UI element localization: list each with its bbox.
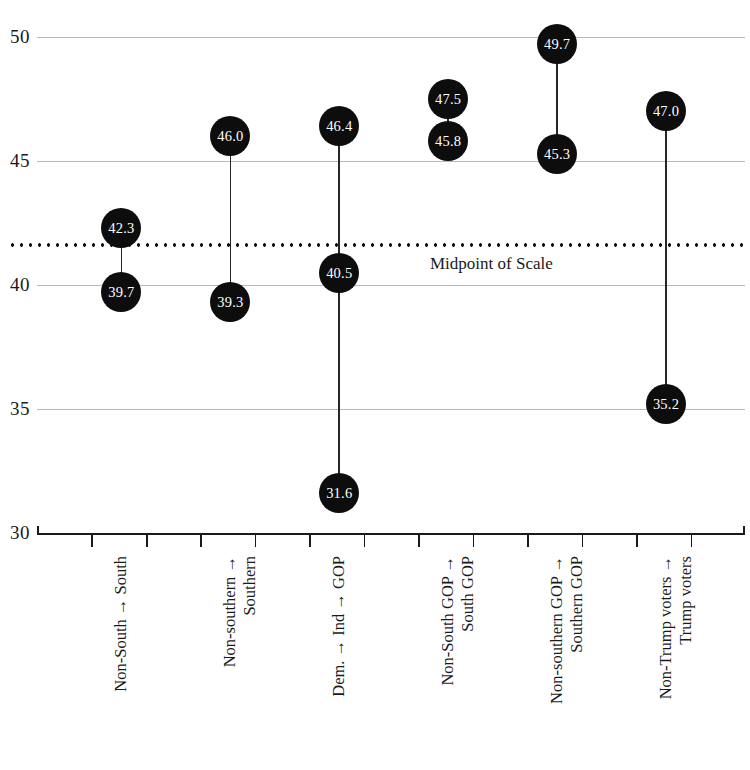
y-axis-tick-label: 50 [0,27,30,46]
x-axis-label-non-trump-voters-to-trump-voters: Non-Trump voters →Trump voters [656,556,696,766]
gridline-35 [37,409,745,410]
y-axis-tick-label: 45 [0,151,30,170]
gridline-40 [37,285,745,286]
data-point-bubble[interactable]: 49.7 [537,24,577,64]
x-axis-label-line1: Non-South GOP → [438,556,457,686]
x-axis-left-cap [37,526,39,535]
x-axis-label-non-south-gop-to-south-gop: Non-South GOP →South GOP [438,556,478,766]
x-axis-right-cap [743,526,745,535]
x-axis-tick [582,535,584,547]
x-axis-label-line1: Dem. → Ind → GOP [329,556,348,697]
connector-line [230,136,232,302]
x-axis-label-line1: Non-southern GOP → [547,556,566,704]
x-axis-tick [309,535,311,547]
gridline-45 [37,161,745,162]
data-point-bubble[interactable]: 35.2 [646,384,686,424]
data-point-bubble[interactable]: 45.8 [428,121,468,161]
data-point-bubble[interactable]: 40.5 [319,253,359,293]
midpoint-of-scale-label: Midpoint of Scale [430,255,553,272]
data-point-bubble[interactable]: 46.0 [210,116,250,156]
x-axis-tick [636,535,638,547]
x-axis-label-non-southern-to-southern: Non-southern →Southern [220,556,260,766]
x-axis-label-line2: Southern GOP [567,556,587,766]
x-axis-tick [146,535,148,547]
data-point-bubble[interactable]: 42.3 [101,208,141,248]
x-axis-label-non-south-to-south: Non-South → South [111,556,131,766]
y-axis-tick-label: 30 [0,523,30,542]
data-point-bubble[interactable]: 46.4 [319,106,359,146]
dumbbell-chart: 5045403530 Midpoint of Scale 42.339.746.… [0,0,750,770]
y-axis-tick-label: 40 [0,275,30,294]
x-axis-tick [364,535,366,547]
data-point-bubble[interactable]: 47.5 [428,79,468,119]
connector-line [338,126,340,493]
x-axis-tick [255,535,257,547]
x-axis-tick [200,535,202,547]
data-point-bubble[interactable]: 47.0 [646,91,686,131]
x-axis-tick [691,535,693,547]
x-axis-label-line1: Non-Trump voters → [656,556,675,699]
x-axis-line [37,533,745,535]
x-axis-label-line2: Southern [240,556,260,766]
x-axis-label-non-southern-gop-to-southern-gop: Non-southern GOP →Southern GOP [547,556,587,766]
data-point-bubble[interactable]: 31.6 [319,473,359,513]
x-axis-tick [418,535,420,547]
x-axis-label-line1: Non-southern → [220,556,239,667]
data-point-bubble[interactable]: 39.7 [101,272,141,312]
connector-line [665,111,667,404]
x-axis-label-line2: South GOP [458,556,478,766]
plot-area: 5045403530 Midpoint of Scale 42.339.746.… [0,0,750,540]
x-axis-tick [527,535,529,547]
y-axis-tick-label: 35 [0,399,30,418]
data-point-bubble[interactable]: 45.3 [537,134,577,174]
x-axis-tick [473,535,475,547]
x-axis-label-dem-to-ind-to-gop: Dem. → Ind → GOP [329,556,349,766]
x-axis-tick [91,535,93,547]
x-axis-label-line2: Trump voters [676,556,696,766]
x-axis-label-line1: Non-South → South [111,556,130,692]
data-point-bubble[interactable]: 39.3 [210,282,250,322]
gridline-50 [37,37,745,38]
